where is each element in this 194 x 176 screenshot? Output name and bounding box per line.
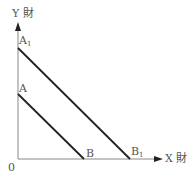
diagram-canvas	[0, 0, 194, 176]
point-a1-label: A1	[19, 35, 31, 48]
line-a1-b1	[18, 48, 130, 159]
point-b1-letter: B	[131, 145, 139, 158]
point-b1-subscript: 1	[139, 151, 143, 159]
x-axis-arrow-icon	[154, 156, 163, 162]
x-axis-label: X 財	[165, 153, 187, 164]
y-axis-label: Y 財	[12, 8, 34, 19]
point-b-label: B	[86, 148, 94, 159]
point-a-letter: A	[19, 82, 27, 95]
point-a-label: A	[19, 83, 27, 94]
origin-label: 0	[8, 162, 15, 173]
y-axis-arrow-icon	[15, 22, 21, 31]
point-a1-letter: A	[19, 34, 27, 47]
point-a1-subscript: 1	[27, 40, 31, 48]
point-b1-label: B1	[131, 146, 144, 159]
point-b-letter: B	[86, 147, 94, 160]
